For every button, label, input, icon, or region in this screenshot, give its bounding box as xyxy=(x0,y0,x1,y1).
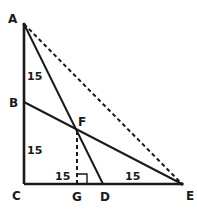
segment-ae-dashed xyxy=(24,24,182,184)
label-point-f: F xyxy=(78,115,86,129)
point-a-marker xyxy=(23,23,26,26)
segment-be xyxy=(24,102,182,184)
label-point-c: C xyxy=(12,189,21,203)
label-length-bc: 15 xyxy=(27,144,42,157)
right-angle-mark-g xyxy=(77,174,87,184)
label-length-ab: 15 xyxy=(27,70,42,83)
label-point-e: E xyxy=(186,189,194,203)
label-length-cg: 15 xyxy=(55,170,70,183)
point-e-marker xyxy=(180,182,184,186)
label-point-a: A xyxy=(8,12,18,26)
geometry-diagram: A B C G D E F 15 15 15 15 xyxy=(0,0,197,211)
label-point-g: G xyxy=(72,190,82,204)
label-point-d: D xyxy=(100,190,110,204)
segment-ad xyxy=(24,24,103,184)
label-length-de: 15 xyxy=(125,170,140,183)
label-point-b: B xyxy=(9,96,18,110)
